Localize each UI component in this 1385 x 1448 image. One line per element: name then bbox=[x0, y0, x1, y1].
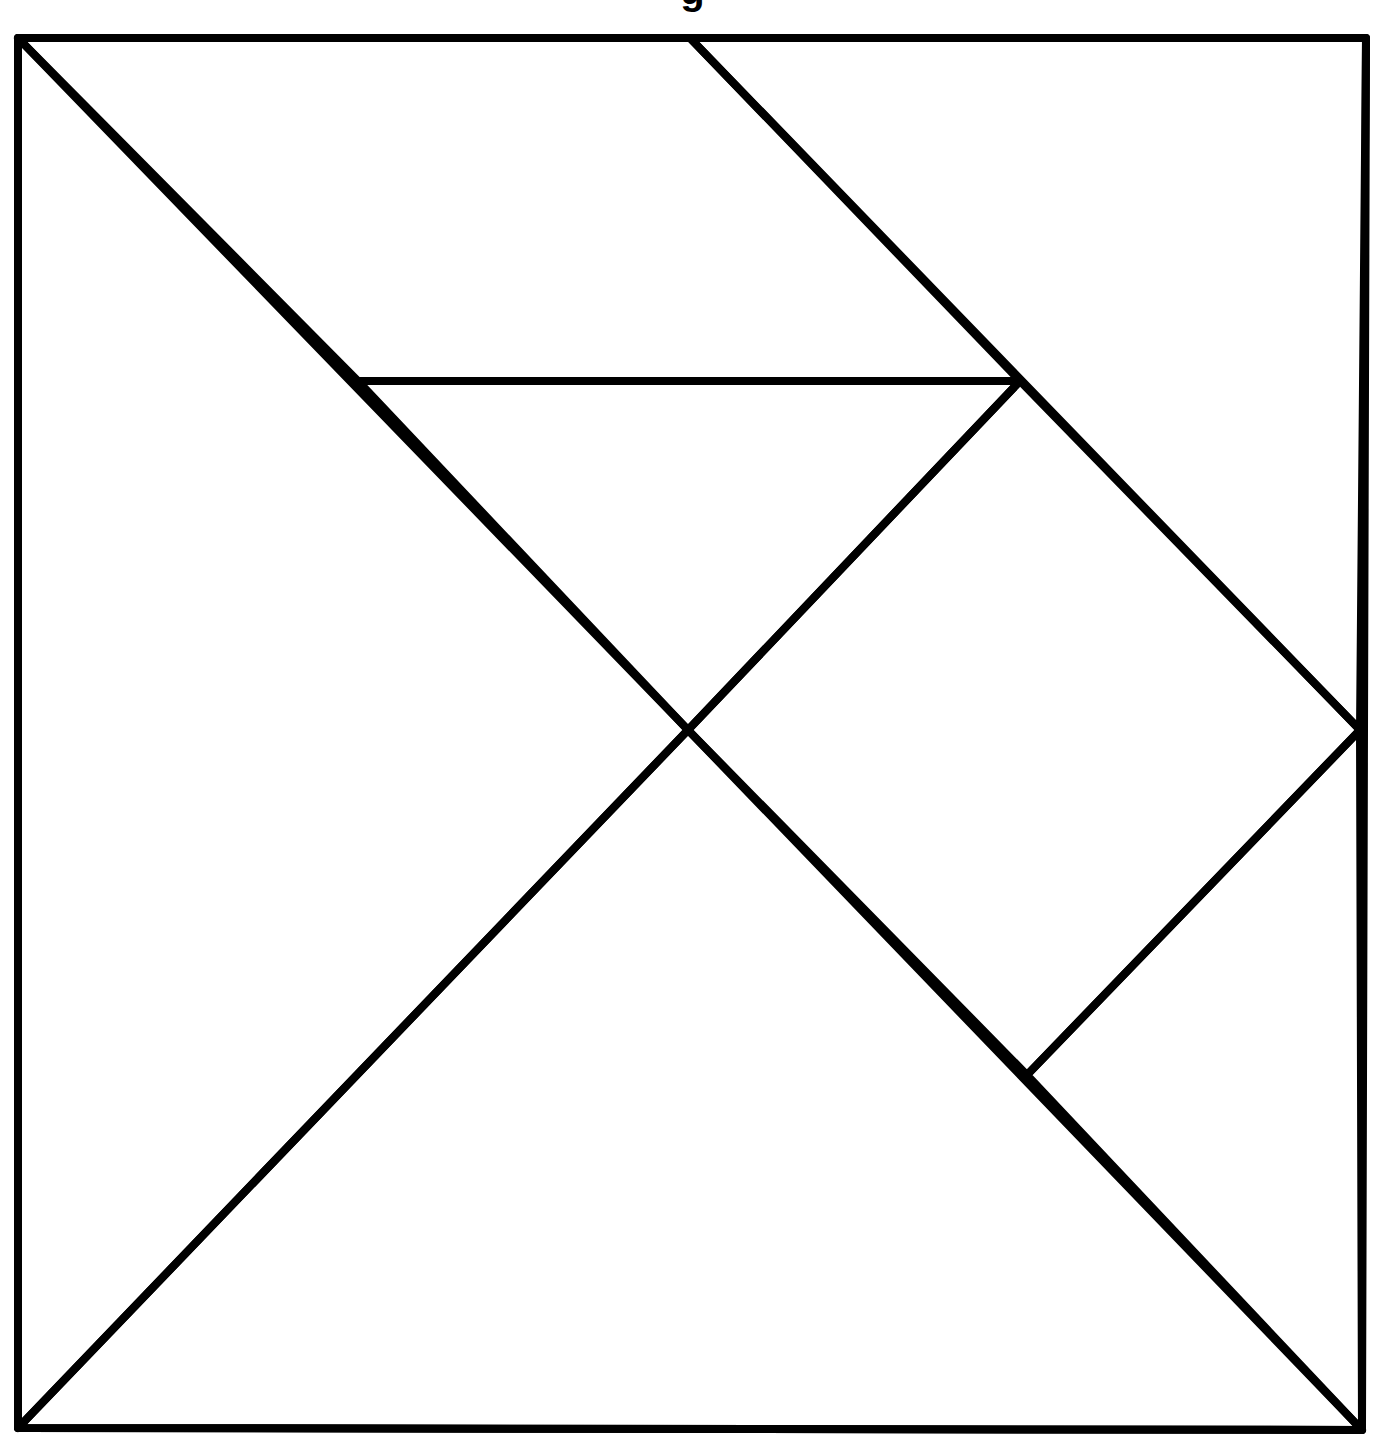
piece-large-triangle-bottom bbox=[18, 730, 1362, 1430]
piece-square-right bbox=[688, 381, 1360, 1075]
piece-small-triangle-middle bbox=[358, 381, 1020, 730]
piece-large-triangle-left bbox=[18, 38, 688, 1428]
piece-parallelogram-top bbox=[18, 38, 1020, 381]
piece-small-triangle-bottom-right bbox=[1027, 730, 1362, 1430]
tangram-diagram bbox=[0, 0, 1385, 1448]
tangram-pieces bbox=[18, 38, 1366, 1430]
